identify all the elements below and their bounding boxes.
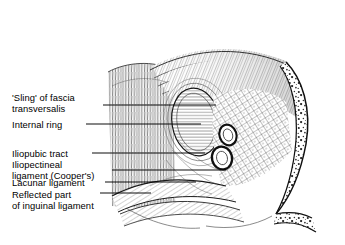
label-iliopubic-tract: Iliopubic tract <box>12 148 68 159</box>
label-lacunar-ligament: Lacunar ligament <box>12 177 85 188</box>
label-internal-ring: Internal ring <box>12 119 62 130</box>
label-sling-of-fascia-transversalis: 'Sling' of fascia transversalis <box>12 92 75 114</box>
figure-root: 'Sling' of fascia transversalisInternal … <box>0 0 345 245</box>
label-reflected-part-of-inguinal-ligament: Reflected part of inguinal ligament <box>12 189 94 211</box>
label-layer: 'Sling' of fascia transversalisInternal … <box>0 0 345 245</box>
